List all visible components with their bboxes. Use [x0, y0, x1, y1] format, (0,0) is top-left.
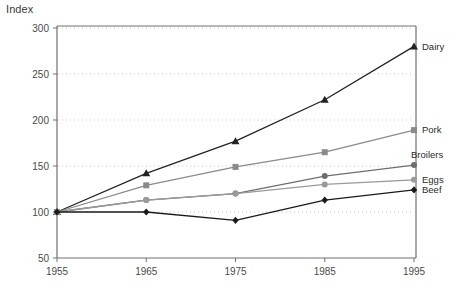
series-marker: [322, 149, 328, 155]
series-dairy: Dairy: [53, 41, 444, 215]
x-axis-tick-label: 1965: [135, 266, 158, 277]
series-marker: [411, 177, 417, 183]
series-marker: [410, 42, 418, 49]
series-label-beef: Beef: [422, 184, 442, 195]
series-marker: [143, 208, 149, 215]
series-marker: [232, 137, 240, 144]
series-marker: [411, 162, 417, 168]
series-marker: [322, 173, 328, 179]
y-axis-tick-label: 250: [32, 69, 49, 80]
series-label-pork: Pork: [422, 124, 442, 135]
series-marker: [233, 164, 239, 170]
x-axis-tick-label: 1995: [403, 266, 426, 277]
chart-container: Index 5010015020025030019551965197519851…: [0, 0, 459, 292]
series-label-dairy: Dairy: [422, 41, 444, 52]
y-axis-tick-label: 150: [32, 161, 49, 172]
series-label-broilers: Broilers: [411, 149, 443, 160]
series-marker: [143, 197, 149, 203]
y-axis-tick-label: 50: [38, 253, 50, 264]
series-marker: [143, 182, 149, 188]
series-eggs: Eggs: [54, 174, 444, 215]
series-marker: [322, 181, 328, 187]
y-axis-tick-label: 300: [32, 23, 49, 34]
x-axis-tick-label: 1955: [46, 266, 69, 277]
x-axis-tick-label: 1985: [314, 266, 337, 277]
series-marker: [232, 217, 238, 224]
series-marker: [233, 191, 239, 197]
series-line: [57, 46, 414, 212]
series-marker: [411, 127, 417, 133]
x-axis-tick-label: 1975: [224, 266, 247, 277]
series-marker: [321, 96, 329, 103]
line-chart-plot: 5010015020025030019551965197519851995Dai…: [0, 0, 459, 292]
y-axis-tick-label: 100: [32, 207, 49, 218]
series-pork: Pork: [54, 124, 442, 215]
y-axis-tick-label: 200: [32, 115, 49, 126]
series-marker: [322, 196, 328, 203]
